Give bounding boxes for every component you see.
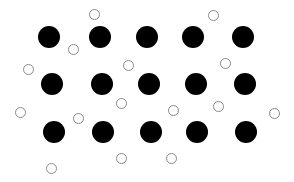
large-particle (138, 73, 160, 95)
large-particle (89, 26, 111, 48)
large-particle (41, 73, 63, 95)
large-particle (91, 73, 113, 95)
large-particle (140, 121, 162, 143)
small-particle (220, 58, 231, 69)
large-particle (182, 26, 204, 48)
large-particle (186, 121, 208, 143)
small-particle (116, 153, 127, 164)
large-particle (43, 121, 65, 143)
large-particle (136, 26, 158, 48)
small-particle (68, 44, 79, 55)
large-particle (92, 121, 114, 143)
large-particle (234, 73, 256, 95)
small-particle (269, 108, 280, 119)
large-particle (38, 26, 60, 48)
particle-diagram (0, 0, 294, 182)
small-particle (168, 105, 179, 116)
small-particle (15, 107, 26, 118)
small-particle (46, 163, 57, 174)
small-particle (123, 60, 134, 71)
small-particle (213, 101, 224, 112)
small-particle (208, 10, 219, 21)
small-particle (89, 9, 100, 20)
small-particle (166, 153, 177, 164)
small-particle (73, 113, 84, 124)
large-particle (185, 73, 207, 95)
small-particle (116, 98, 127, 109)
large-particle (235, 121, 257, 143)
large-particle (232, 26, 254, 48)
small-particle (23, 64, 34, 75)
